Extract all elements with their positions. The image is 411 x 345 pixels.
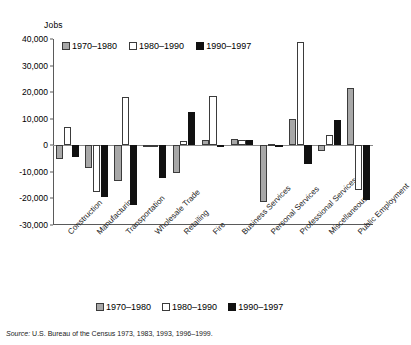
source-prefix: Source:: [6, 330, 30, 337]
bar-group: [114, 39, 137, 225]
bar: [151, 145, 158, 147]
y-axis-line: [53, 39, 54, 225]
legend-item: 1990–1997: [228, 302, 283, 312]
legend-item: 1980–1990: [129, 41, 184, 51]
bar: [64, 127, 71, 146]
bar: [318, 145, 325, 150]
bar-group: [56, 39, 79, 225]
bar: [334, 120, 341, 145]
bar: [209, 96, 216, 145]
legend-swatch-2: [196, 42, 204, 50]
bar: [143, 145, 150, 147]
bar: [188, 112, 195, 145]
bar: [56, 145, 63, 158]
y-tick-label: 40,000: [22, 34, 53, 44]
legend-label: 1970–1980: [72, 41, 117, 51]
y-tick-mark: [50, 92, 53, 93]
legend-swatch-0: [96, 303, 104, 311]
bar-group: [231, 39, 254, 225]
y-tick-label: 10,000: [22, 114, 53, 124]
plot-area: 40,00030,00020,00010,0000-10,000-20,000-…: [53, 39, 373, 225]
legend-label: 1980–1990: [139, 41, 184, 51]
y-tick-mark: [50, 65, 53, 66]
legend-swatch-1: [129, 42, 137, 50]
y-tick-label: -30,000: [19, 220, 53, 230]
bar: [72, 145, 79, 157]
bar: [173, 145, 180, 173]
legend-item: 1980–1990: [162, 302, 217, 312]
source-text: U.S. Bureau of the Census 1973, 1983, 19…: [32, 330, 213, 337]
legend-top: 1970–19801980–19901990–1997: [62, 41, 251, 51]
legend-swatch-0: [62, 42, 70, 50]
legend-swatch-1: [162, 303, 170, 311]
legend-bottom: 1970–19801980–19901990–1997: [96, 302, 283, 312]
bar: [355, 145, 362, 190]
y-axis-unit-label: Jobs: [44, 20, 63, 30]
y-tick-label: 30,000: [22, 61, 53, 71]
legend-swatch-2: [228, 303, 236, 311]
y-tick-mark: [50, 225, 53, 226]
bar-group: [85, 39, 108, 225]
bar: [122, 97, 129, 145]
legend-item: 1970–1980: [62, 41, 117, 51]
legend-item: 1970–1980: [96, 302, 151, 312]
y-tick-mark: [50, 118, 53, 119]
source-note: Source: U.S. Bureau of the Census 1973, …: [6, 330, 213, 337]
bar-group: [202, 39, 225, 225]
bar: [217, 145, 224, 147]
bar: [85, 145, 92, 168]
bar: [275, 145, 282, 147]
y-tick-mark: [50, 39, 53, 40]
bar: [130, 145, 137, 205]
legend-label: 1990–1997: [238, 302, 283, 312]
bar: [297, 42, 304, 146]
bar: [260, 145, 267, 202]
bar: [326, 135, 333, 146]
legend-label: 1990–1997: [206, 41, 251, 51]
y-tick-mark: [50, 171, 53, 172]
bar: [114, 145, 121, 181]
y-tick-label: -20,000: [19, 193, 53, 203]
bar: [159, 145, 166, 178]
bar: [93, 145, 100, 192]
bar: [101, 145, 108, 197]
bar: [246, 140, 253, 145]
y-tick-label: -10,000: [19, 167, 53, 177]
bar: [231, 139, 238, 146]
y-tick-label: 20,000: [22, 87, 53, 97]
bar: [289, 119, 296, 146]
bar: [180, 141, 187, 145]
bar: [268, 144, 275, 146]
legend-label: 1980–1990: [172, 302, 217, 312]
bar: [363, 145, 370, 199]
legend-item: 1990–1997: [196, 41, 251, 51]
bar: [304, 145, 311, 164]
legend-label: 1970–1980: [106, 302, 151, 312]
y-tick-mark: [50, 198, 53, 199]
bar: [238, 140, 245, 145]
bar: [347, 88, 354, 145]
bar: [202, 140, 209, 145]
